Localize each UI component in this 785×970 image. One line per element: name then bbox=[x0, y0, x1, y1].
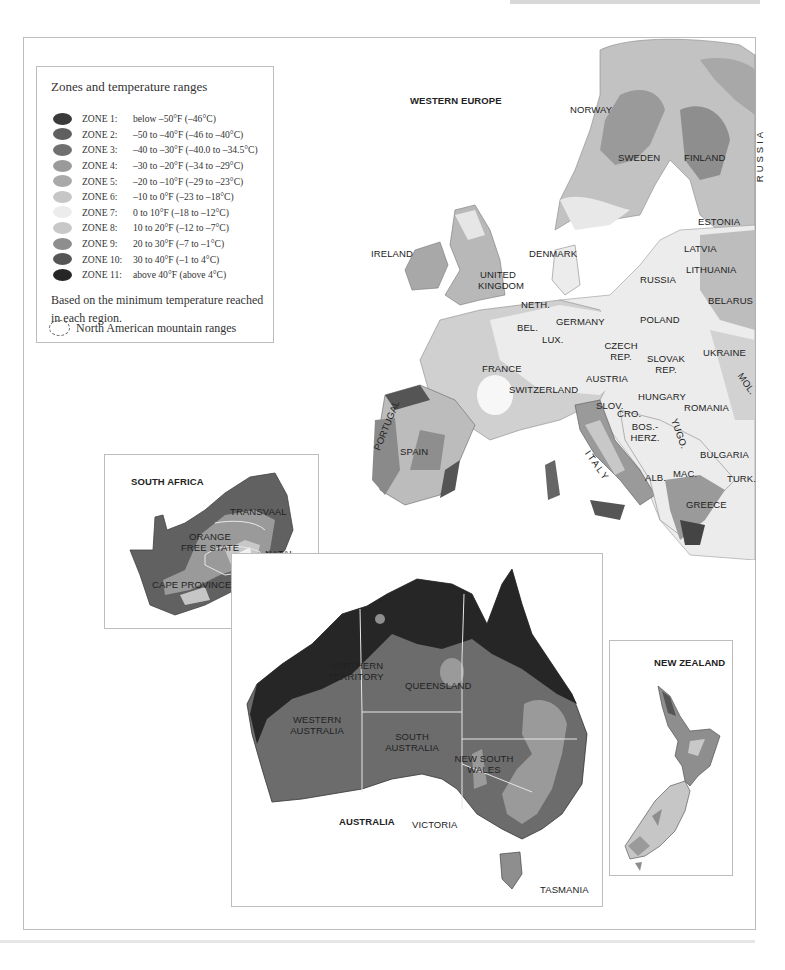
page-bottom-shade bbox=[0, 940, 755, 943]
label-poland: POLAND bbox=[640, 314, 680, 325]
australia-inset: NORTHERN TERRITORY QUEENSLAND WESTERN AU… bbox=[231, 553, 603, 907]
zone-2-swatch-icon bbox=[53, 128, 72, 140]
label-latvia: LATVIA bbox=[684, 243, 717, 254]
zone-label: ZONE 3: bbox=[82, 144, 133, 155]
label-belarus: BELARUS bbox=[708, 295, 753, 306]
label-luxembourg: LUX. bbox=[542, 334, 564, 345]
zone-label: ZONE 9: bbox=[82, 238, 133, 249]
label-switzerland: SWITZERLAND bbox=[509, 384, 578, 395]
label-slovak-rep: SLOVAK REP. bbox=[646, 353, 686, 375]
label-bulgaria: BULGARIA bbox=[700, 449, 749, 460]
label-ireland: IRELAND bbox=[371, 248, 413, 259]
label-queensland: QUEENSLAND bbox=[405, 680, 471, 691]
legend-row-zone-5: ZONE 5:–20 to –10°F (–29 to –23°C) bbox=[53, 173, 258, 189]
zone-label: ZONE 2: bbox=[82, 129, 133, 140]
label-orange-free-state: ORANGE FREE STATE bbox=[179, 531, 241, 553]
zone-range: 20 to 30°F (–7 to –1°C) bbox=[133, 238, 224, 249]
zone-8-swatch-icon bbox=[53, 222, 72, 234]
label-netherlands: NETH. bbox=[521, 299, 550, 310]
zone-range: 10 to 20°F (–12 to –7°C) bbox=[133, 222, 229, 233]
label-finland: FINLAND bbox=[684, 152, 725, 163]
label-czech-rep: CZECH REP. bbox=[604, 340, 638, 362]
legend-row-zone-3: ZONE 3:–40 to –30°F (–40.0 to –34.5°C) bbox=[53, 142, 258, 158]
legend-zone-list: ZONE 1:below –50°F (–46°C) ZONE 2:–50 to… bbox=[53, 111, 258, 283]
zone-range: –50 to –40°F (–46 to –40°C) bbox=[133, 129, 243, 140]
label-greece: GREECE bbox=[686, 499, 727, 510]
zone-range: above 40°F (above 4°C) bbox=[133, 269, 226, 280]
label-south-australia: SOUTH AUSTRALIA bbox=[380, 731, 444, 753]
zone-range: 30 to 40°F (–1 to 4°C) bbox=[133, 254, 219, 265]
dashed-oval-icon bbox=[49, 320, 70, 336]
zone-9-swatch-icon bbox=[53, 238, 72, 250]
label-croatia: CRO. bbox=[617, 408, 641, 419]
legend-row-zone-11: ZONE 11:above 40°F (above 4°C) bbox=[53, 267, 258, 283]
zone-label: ZONE 6: bbox=[82, 191, 133, 202]
label-transvaal: TRANSVAAL bbox=[230, 506, 287, 517]
zone-label: ZONE 10: bbox=[82, 254, 133, 265]
label-bosnia-herzegovina: BOS.-HERZ. bbox=[628, 421, 662, 443]
label-denmark: DENMARK bbox=[529, 248, 577, 259]
label-albania: ALB. bbox=[645, 472, 666, 483]
label-victoria: VICTORIA bbox=[412, 819, 458, 830]
legend-row-zone-1: ZONE 1:below –50°F (–46°C) bbox=[53, 111, 258, 127]
zone-6-swatch-icon bbox=[53, 191, 72, 203]
new-zealand-map-shapes bbox=[610, 641, 732, 875]
legend-row-zone-4: ZONE 4:–30 to –20°F (–34 to –29°C) bbox=[53, 158, 258, 174]
zone-range: –40 to –30°F (–40.0 to –34.5°C) bbox=[133, 144, 258, 155]
zone-5-swatch-icon bbox=[53, 175, 72, 187]
zone-range: –20 to –10°F (–29 to –23°C) bbox=[133, 176, 243, 187]
label-turkey: TURK. bbox=[727, 473, 756, 484]
label-belgium: BEL. bbox=[517, 322, 538, 333]
label-sweden: SWEDEN bbox=[618, 152, 660, 163]
label-tasmania: TASMANIA bbox=[540, 884, 589, 895]
zone-range: 0 to 10°F (–18 to –12°C) bbox=[133, 207, 229, 218]
label-russia-north: RUSSIA bbox=[754, 129, 765, 182]
zone-label: ZONE 8: bbox=[82, 222, 133, 233]
label-macedonia: MAC. bbox=[673, 468, 697, 479]
zone-range: –30 to –20°F (–34 to –29°C) bbox=[133, 160, 243, 171]
label-western-australia: WESTERN AUSTRALIA bbox=[287, 714, 347, 736]
legend-row-zone-6: ZONE 6:–10 to 0°F (–23 to –18°C) bbox=[53, 189, 258, 205]
label-norway: NORWAY bbox=[570, 104, 612, 115]
legend-panel: Zones and temperature ranges ZONE 1:belo… bbox=[36, 66, 274, 343]
south-africa-title: SOUTH AFRICA bbox=[131, 476, 204, 487]
zone-range: below –50°F (–46°C) bbox=[133, 113, 216, 124]
legend-row-zone-9: ZONE 9:20 to 30°F (–7 to –1°C) bbox=[53, 236, 258, 252]
zone-label: ZONE 1: bbox=[82, 113, 133, 124]
label-germany: GERMANY bbox=[556, 316, 605, 327]
new-zealand-inset: NEW ZEALAND bbox=[609, 640, 733, 876]
zone-4-swatch-icon bbox=[53, 160, 72, 172]
zone-label: ZONE 7: bbox=[82, 207, 133, 218]
legend-row-zone-2: ZONE 2:–50 to –40°F (–46 to –40°C) bbox=[53, 127, 258, 143]
zone-1-swatch-icon bbox=[53, 113, 72, 125]
australia-title: AUSTRALIA bbox=[339, 816, 395, 827]
label-spain: SPAIN bbox=[400, 446, 428, 457]
label-romania: ROMANIA bbox=[684, 402, 729, 413]
label-northern-territory: NORTHERN TERRITORY bbox=[321, 660, 391, 682]
mountain-label: North American mountain ranges bbox=[76, 321, 236, 336]
zone-label: ZONE 4: bbox=[82, 160, 133, 171]
zone-10-swatch-icon bbox=[53, 253, 72, 265]
label-ukraine: UKRAINE bbox=[703, 347, 746, 358]
legend-row-zone-10: ZONE 10:30 to 40°F (–1 to 4°C) bbox=[53, 251, 258, 267]
label-new-south-wales: NEW SOUTH WALES bbox=[450, 753, 518, 775]
label-lithuania: LITHUANIA bbox=[686, 264, 737, 275]
label-cape-province: CAPE PROVINCE bbox=[152, 579, 231, 590]
label-united-kingdom: UNITED KINGDOM bbox=[478, 269, 518, 291]
label-estonia: ESTONIA bbox=[698, 216, 740, 227]
europe-title: WESTERN EUROPE bbox=[410, 95, 502, 106]
label-france: FRANCE bbox=[482, 363, 522, 374]
label-hungary: HUNGARY bbox=[638, 391, 686, 402]
legend-title: Zones and temperature ranges bbox=[51, 79, 207, 95]
legend-mountain-ranges: North American mountain ranges bbox=[49, 320, 236, 336]
label-russia-kaliningrad: RUSSIA bbox=[640, 274, 676, 285]
zone-11-swatch-icon bbox=[53, 269, 72, 281]
zone-range: –10 to 0°F (–23 to –18°C) bbox=[133, 191, 234, 202]
zone-7-swatch-icon bbox=[53, 206, 72, 218]
zone-3-swatch-icon bbox=[53, 144, 72, 156]
zone-label: ZONE 5: bbox=[82, 176, 133, 187]
label-austria: AUSTRIA bbox=[586, 373, 628, 384]
new-zealand-title: NEW ZEALAND bbox=[654, 657, 725, 668]
zone-label: ZONE 11: bbox=[82, 269, 133, 280]
legend-row-zone-7: ZONE 7:0 to 10°F (–18 to –12°C) bbox=[53, 205, 258, 221]
